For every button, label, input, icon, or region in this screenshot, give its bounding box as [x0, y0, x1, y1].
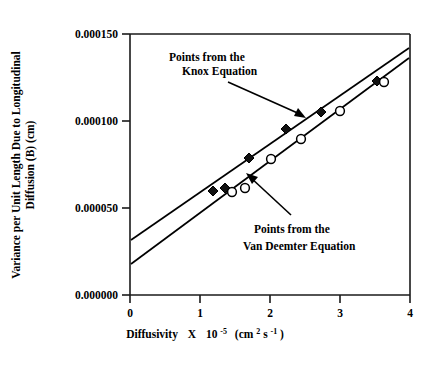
knox-point-5	[316, 107, 326, 117]
x-title-main: Diffusivity	[126, 328, 178, 341]
x-title-units-close: )	[280, 328, 284, 341]
y-ticklabel-0: 0.000150	[75, 28, 118, 40]
x-title-exponent: -5	[220, 327, 227, 336]
y-title-line2: Diffusion (B) (cm)	[24, 120, 37, 209]
plot-frame	[130, 34, 410, 295]
x-title-mantissa: 10	[206, 328, 218, 340]
x-ticklabel-2: 2	[267, 307, 273, 319]
y-axis-ticks	[122, 34, 130, 295]
vandeemter-point-1	[228, 188, 237, 197]
chart-figure: 0.000150 0.000100 0.000050 0.000000 0 1 …	[0, 0, 429, 366]
svg-text:Diffusivity X: Diffusivity X 10 -5 (cm 2 s -1 )	[126, 324, 284, 341]
y-title-line1: Variance per Unit Length Due to Longitud…	[10, 51, 23, 278]
y-ticklabel-1: 0.000100	[75, 115, 118, 127]
x-ticklabel-1: 1	[197, 307, 203, 319]
y-ticklabel-2: 0.000050	[75, 202, 118, 214]
knox-annotation-line2: Knox Equation	[182, 65, 258, 78]
vandeemter-annotation-line1: Points from the	[254, 223, 330, 235]
y-ticklabel-3: 0.000000	[75, 289, 118, 301]
scatter-plot-svg: 0.000150 0.000100 0.000050 0.000000 0 1 …	[0, 0, 429, 366]
vandeemter-point-4	[297, 135, 306, 144]
x-title-units-s: s	[263, 328, 268, 340]
vandeemter-leader-line	[250, 177, 291, 215]
x-axis-ticks	[130, 295, 410, 303]
vandeemter-annotation-line2: Van Deemter Equation	[243, 240, 356, 253]
knox-arrowhead-icon	[294, 108, 306, 118]
x-title-units-sup2: -1	[270, 327, 277, 336]
knox-fit-line	[131, 48, 409, 240]
knox-annotation: Points from the Knox Equation	[169, 51, 306, 118]
knox-annotation-line1: Points from the	[169, 51, 245, 63]
x-ticklabel-4: 4	[407, 307, 413, 319]
x-title-units-sup1: 2	[256, 327, 260, 336]
knox-data-points	[208, 76, 382, 196]
x-title-times: X	[188, 328, 197, 340]
vandeemter-point-2	[241, 184, 250, 193]
x-axis-title: Diffusivity X 10 -5 (cm 2 s -1 )	[126, 324, 284, 341]
x-title-units-open: (cm	[235, 328, 254, 341]
knox-point-4	[281, 124, 291, 134]
vandeemter-annotation: Points from the Van Deemter Equation	[243, 173, 356, 253]
knox-leader-line	[228, 82, 302, 115]
vandeemter-point-5	[336, 107, 345, 116]
y-axis-title: Variance per Unit Length Due to Longitud…	[10, 51, 37, 278]
x-ticklabel-3: 3	[337, 307, 343, 319]
vandeemter-point-3	[267, 155, 276, 164]
knox-point-1	[208, 186, 218, 196]
x-ticklabel-0: 0	[127, 307, 133, 319]
vandeemter-point-6	[380, 78, 389, 87]
